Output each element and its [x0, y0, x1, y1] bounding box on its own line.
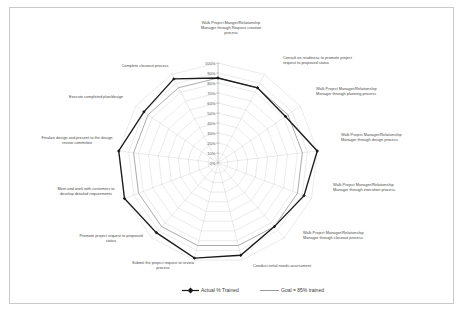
chart-legend: Actual % Trained Goal = 85% trained [182, 287, 324, 293]
tick-label: 50% [207, 111, 216, 116]
category-label-group: Walk Project Manger/RelationshipManager … [42, 20, 402, 270]
category-axis-label-1: Consult on readiness to promote projectr… [283, 55, 353, 65]
chart-page: 0%10%20%30%40%50%60%70%80%90%100% Walk P… [0, 0, 463, 311]
tick-label-group: 0%10%20%30%40%50%60%70%80%90%100% [205, 61, 220, 166]
tick-label: 60% [207, 101, 216, 106]
legend-label-actual: Actual % Trained [201, 287, 239, 293]
category-axis-label-7: Submit the project request to reviewproc… [132, 260, 194, 270]
tick-label: 100% [205, 61, 216, 66]
tick-label: 90% [207, 71, 216, 76]
category-axis-label-2: Walk Project Manager/RelationshipManager… [316, 86, 377, 96]
category-axis-label-9: Meet and work with customers todevelop d… [58, 186, 115, 196]
tick-label: 80% [207, 81, 216, 86]
category-axis-label-11: Execute completed plan/design [69, 94, 123, 99]
tick-label: 20% [207, 141, 216, 146]
tick-label: 40% [207, 121, 216, 126]
tick-label: 0% [209, 161, 215, 166]
category-axis-label-10: Finalize design and present to the desig… [42, 135, 113, 145]
category-axis-label-5: Walk Project Manager/RelationshipManager… [303, 230, 364, 240]
category-axis-label-3: Walk Project Manager/RelationshipManager… [341, 132, 402, 142]
legend-diamond-icon [188, 288, 194, 294]
data-point-marker [216, 76, 219, 79]
legend-label-goal: Goal = 85% trained [281, 287, 324, 293]
tick-label: 10% [207, 151, 216, 156]
tick-label: 30% [207, 131, 216, 136]
category-axis-label-0: Walk Project Manger/RelationshipManager … [201, 20, 261, 35]
category-axis-label-12: Complete closeout process [122, 63, 169, 68]
category-axis-label-8: Promote project request to proposedstatu… [79, 233, 142, 243]
category-axis-label-6: Conduct initial needs assessment [253, 263, 312, 268]
tick-label: 70% [207, 91, 216, 96]
category-axis-label-4: Walk Project Manager/RelationshipManager… [333, 182, 395, 192]
radar-chart: 0%10%20%30%40%50%60%70%80%90%100% Walk P… [0, 0, 463, 311]
